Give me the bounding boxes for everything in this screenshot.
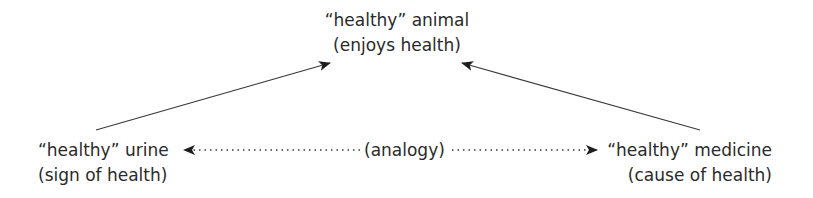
node-label: “healthy” urine: [38, 138, 169, 163]
node-healthy-animal: “healthy” animal (enjoys health): [297, 8, 497, 58]
node-sublabel: (sign of health): [38, 163, 169, 188]
node-healthy-urine: “healthy” urine (sign of health): [38, 138, 169, 188]
node-sublabel: (enjoys health): [297, 33, 497, 58]
node-label: “healthy” animal: [297, 8, 497, 33]
arrow-medicine-to-animal: [462, 63, 700, 130]
arrow-urine-to-animal: [96, 63, 330, 130]
node-healthy-medicine: “healthy” medicine (cause of health): [600, 138, 772, 188]
node-sublabel: (cause of health): [600, 163, 772, 188]
node-label: “healthy” medicine: [600, 138, 772, 163]
analogy-label: (analogy): [360, 138, 449, 163]
